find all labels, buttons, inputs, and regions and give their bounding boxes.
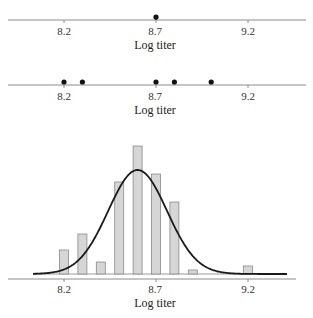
data-point <box>209 79 214 84</box>
dot-plot-single: 8.2 8.7 9.2 Log titer <box>8 14 306 52</box>
data-point <box>153 14 158 19</box>
tick-label: 9.2 <box>241 283 255 295</box>
histogram-bar <box>188 270 197 274</box>
tick-label: 9.2 <box>241 90 255 102</box>
tick-label: 8.7 <box>148 90 162 102</box>
histogram-bar <box>133 146 142 274</box>
data-point <box>172 79 177 84</box>
histogram-bar <box>96 262 105 274</box>
x-axis-title: Log titer <box>134 103 176 117</box>
histogram-bar <box>170 202 179 274</box>
x-axis-title: Log titer <box>134 38 176 52</box>
data-point <box>153 79 158 84</box>
data-point <box>61 79 66 84</box>
data-point <box>80 79 85 84</box>
dot-plot-multiple: 8.2 8.7 9.2 Log titer <box>8 79 306 117</box>
tick-label: 9.2 <box>241 25 255 37</box>
figure: 8.2 8.7 9.2 Log titer 8.2 8.7 9.2 Log ti… <box>0 0 313 318</box>
x-axis-title: Log titer <box>134 296 176 310</box>
tick-label: 8.7 <box>148 25 162 37</box>
tick-label: 8.7 <box>148 283 162 295</box>
histogram: 8.2 8.7 9.2 Log titer <box>8 146 296 310</box>
tick-label: 8.2 <box>57 283 71 295</box>
histogram-bar <box>78 234 87 274</box>
histogram-bar <box>244 266 253 274</box>
tick-label: 8.2 <box>57 25 71 37</box>
tick-label: 8.2 <box>57 90 71 102</box>
